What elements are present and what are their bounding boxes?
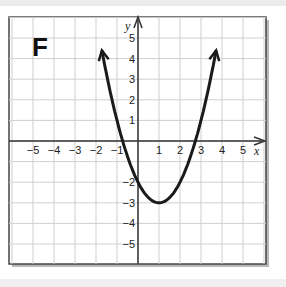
x-axis-label: x [253,144,260,158]
y-axis-label: y [124,19,131,33]
x-tick-label: 5 [240,144,246,156]
x-tick-label: −1 [111,144,124,156]
y-tick-label: −4 [122,217,135,229]
y-tick-label: −3 [122,197,135,209]
x-tick-label: 4 [219,144,225,156]
y-tick-label: 5 [129,32,135,44]
y-tick-label: 1 [129,114,135,126]
x-tick-label: 2 [177,144,183,156]
x-tick-label: 1 [156,144,162,156]
y-tick-label: −5 [122,238,135,250]
x-tick-label: −5 [27,144,40,156]
x-tick-label: 3 [198,144,204,156]
x-tick-label: −4 [48,144,61,156]
x-tick-label: −3 [69,144,82,156]
y-tick-label: −2 [122,176,135,188]
y-tick-label: 4 [129,53,135,65]
x-tick-label: −2 [90,144,103,156]
panel-label: F [32,32,48,63]
y-tick-label: 3 [129,73,135,85]
y-tick-label: 2 [129,94,135,106]
